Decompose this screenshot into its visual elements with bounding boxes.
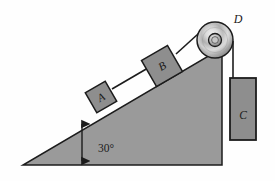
angle-label-30deg: 30° — [98, 142, 115, 154]
ramp-surface — [23, 48, 222, 165]
block-c: C — [230, 78, 256, 140]
block-a: A — [85, 81, 116, 112]
diagram-canvas: A B D C 30° — [0, 0, 275, 181]
physics-diagram-figure: A B D C 30° — [0, 0, 275, 181]
pulley-d-label: D — [233, 12, 243, 26]
block-c-label: C — [239, 109, 247, 121]
inclined-ramp — [23, 48, 222, 165]
pulley-d: D — [197, 12, 243, 58]
cord-a-to-b — [112, 68, 148, 89]
pulley-axle — [212, 37, 219, 44]
